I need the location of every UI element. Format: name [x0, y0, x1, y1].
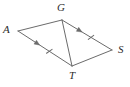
- vertex-label-S: S: [118, 44, 124, 55]
- vertex-label-T: T: [69, 70, 75, 81]
- geometry-diagram: [0, 0, 130, 87]
- parallel-arrow-icon-AT: [34, 40, 41, 47]
- segment-AT: [18, 31, 72, 66]
- vertex-label-G: G: [57, 2, 65, 13]
- vertex-label-A: A: [3, 24, 10, 35]
- segment-AG: [18, 20, 62, 31]
- geometry-figure: A G S T: [0, 0, 130, 87]
- congruence-tick-icon-GS: [88, 34, 93, 41]
- segment-TS: [72, 50, 112, 66]
- parallel-arrow-icon-GS: [76, 27, 83, 34]
- segment-GS: [62, 20, 112, 50]
- segment-GT-diagonal: [62, 20, 72, 66]
- congruence-tick-icon-AT: [47, 48, 53, 55]
